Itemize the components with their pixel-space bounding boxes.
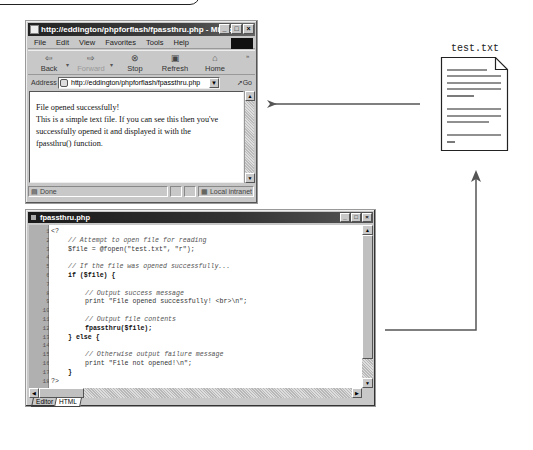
code-text: // Attempt to open file for reading [68,236,207,245]
line-number: 17 [32,368,50,377]
line-number: 6 [32,271,50,280]
code-line: } else { [49,333,362,342]
editor-horizontal-scrollbar[interactable]: ◀ ▶ [29,388,362,398]
line-number: 9 [32,297,50,306]
code-line [49,253,362,262]
file-label: test.txt [440,43,510,54]
line-number: 10 [32,306,50,315]
code-line: // Output success message [49,289,362,298]
code-line: fpassthru($file); [49,324,362,333]
code-line: // Otherwise output failure message [49,350,362,359]
scroll-right-button[interactable]: ▶ [352,388,362,398]
editor-doc-icon [31,215,36,220]
line-number: 3 [32,245,50,254]
line-number: 18 [32,377,50,386]
arrow-editor-to-file [385,170,481,330]
code-line [49,306,362,315]
code-text: if ($file) { [68,271,115,280]
code-line: $file = @fopen("test.txt", "r"); [49,245,362,254]
line-number-gutter: 123456789101112131415161718 [29,225,49,388]
code-text: } else { [68,333,100,342]
code-line: ?> [49,377,362,386]
editor-title: fpassthru.php [40,213,90,222]
code-text: $file = @fopen("test.txt", "r"); [68,245,195,254]
code-line: print "File not opened!\n"; [49,359,362,368]
code-text: } [68,368,72,377]
scroll-thumb[interactable] [362,235,373,359]
code-text: print "File opened successfully! <br>\n"… [85,297,247,306]
tab-html[interactable]: HTML [54,398,82,407]
scroll-thumb[interactable] [39,388,84,398]
scroll-left-button[interactable]: ◀ [29,388,39,398]
code-text: // If the file was opened successfully..… [68,262,230,271]
code-line: } [49,368,362,377]
code-text: ?> [51,377,59,386]
line-number: 5 [32,262,50,271]
code-text: fpassthru($file); [85,324,152,333]
minimize-button[interactable]: _ [340,213,350,222]
code-line [49,341,362,350]
maximize-button[interactable]: □ [351,213,361,222]
scroll-up-button[interactable]: ▲ [362,225,373,235]
code-text: // Otherwise output failure message [85,350,224,359]
line-number: 7 [32,280,50,289]
code-editor[interactable]: <?// Attempt to open file for reading$fi… [49,225,362,388]
code-line: print "File opened successfully! <br>\n"… [49,297,362,306]
editor-tabs: Editor HTML [29,398,372,407]
line-number: 16 [32,359,50,368]
line-number: 2 [32,236,50,245]
code-text: <? [51,227,59,236]
line-number: 12 [32,324,50,333]
code-line: // If the file was opened successfully..… [49,262,362,271]
editor-vertical-scrollbar[interactable]: ▲ ▼ [362,225,373,388]
text-file-icon [442,58,508,151]
code-line: // Output file contents [49,315,362,324]
close-button[interactable]: × [362,213,372,222]
code-line: // Attempt to open file for reading [49,236,362,245]
code-text: // Output success message [85,289,184,298]
code-text: // Output file contents [85,315,176,324]
line-number: 11 [32,315,50,324]
editor-titlebar[interactable]: fpassthru.php _ □ × [28,212,373,223]
line-number: 1 [32,227,50,236]
line-number: 8 [32,289,50,298]
scroll-down-button[interactable]: ▼ [362,378,373,388]
code-line: if ($file) { [49,271,362,280]
code-text: print "File not opened!\n"; [85,359,192,368]
line-number: 15 [32,350,50,359]
code-line [49,280,362,289]
code-line: <? [49,227,362,236]
line-number: 14 [32,341,50,350]
line-number: 13 [32,333,50,342]
line-number: 4 [32,253,50,262]
editor-window: fpassthru.php _ □ × 12345678910111213141… [25,209,376,407]
